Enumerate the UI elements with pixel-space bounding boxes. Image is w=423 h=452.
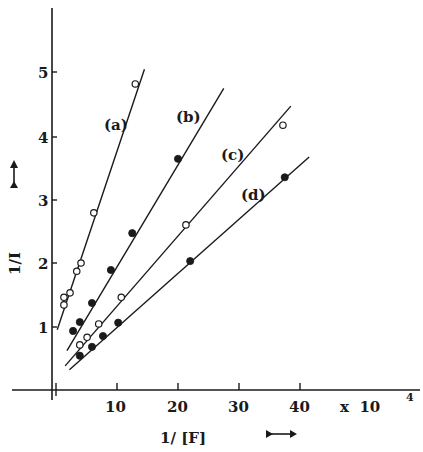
series-labels: (a) (b) (c) (d) bbox=[104, 108, 266, 204]
data-points bbox=[61, 81, 289, 360]
y-arrow-icon bbox=[10, 160, 18, 188]
data-point bbox=[61, 294, 67, 300]
x-tick-label: 30 bbox=[228, 398, 249, 416]
data-point bbox=[281, 174, 288, 181]
data-point bbox=[280, 122, 286, 128]
data-point bbox=[67, 290, 73, 296]
y-tick-label: 3 bbox=[38, 192, 48, 210]
x-tick-label: 20 bbox=[167, 398, 188, 416]
data-point bbox=[88, 343, 95, 350]
x-multiplier: x 10 bbox=[340, 398, 380, 416]
series-label-b: (b) bbox=[176, 108, 201, 126]
data-point bbox=[76, 352, 83, 359]
y-tick-label: 2 bbox=[38, 255, 48, 273]
data-point bbox=[115, 319, 122, 326]
y-axis-title: 1/I bbox=[6, 252, 24, 275]
data-point bbox=[78, 260, 84, 266]
data-point bbox=[107, 266, 114, 273]
x-arrow-icon bbox=[266, 430, 297, 438]
data-point bbox=[174, 155, 181, 162]
data-point bbox=[91, 210, 97, 216]
data-point bbox=[74, 268, 80, 274]
y-tick-label: 4 bbox=[38, 129, 48, 147]
y-tick-labels: 1 2 3 4 5 bbox=[38, 64, 48, 337]
data-point bbox=[88, 299, 95, 306]
series-label-d: (d) bbox=[241, 186, 266, 204]
data-point bbox=[132, 81, 138, 87]
data-point bbox=[96, 321, 102, 327]
x-tick-label: 40 bbox=[289, 398, 310, 416]
data-point bbox=[129, 230, 136, 237]
data-point bbox=[61, 302, 67, 308]
series-label-a: (a) bbox=[104, 116, 128, 134]
data-point bbox=[69, 327, 76, 334]
lineweaver-burk-plot: 1 2 3 4 5 10 20 30 40 x 10 4 1/ [F] 1/I … bbox=[0, 0, 423, 452]
x-tick-labels: 10 20 30 40 bbox=[105, 398, 310, 416]
x-multiplier-exponent: 4 bbox=[406, 391, 414, 404]
data-point bbox=[84, 334, 90, 340]
data-point bbox=[77, 342, 83, 348]
fit-line-b bbox=[67, 88, 224, 350]
x-tick-label: 10 bbox=[105, 398, 126, 416]
data-point bbox=[76, 318, 83, 325]
data-point bbox=[183, 222, 189, 228]
y-tick-label: 5 bbox=[38, 64, 48, 82]
series-label-c: (c) bbox=[221, 146, 244, 164]
data-point bbox=[118, 294, 124, 300]
data-point bbox=[99, 332, 106, 339]
data-point bbox=[187, 257, 194, 264]
y-tick-label: 1 bbox=[38, 319, 48, 337]
x-axis-title: 1/ [F] bbox=[160, 429, 206, 447]
